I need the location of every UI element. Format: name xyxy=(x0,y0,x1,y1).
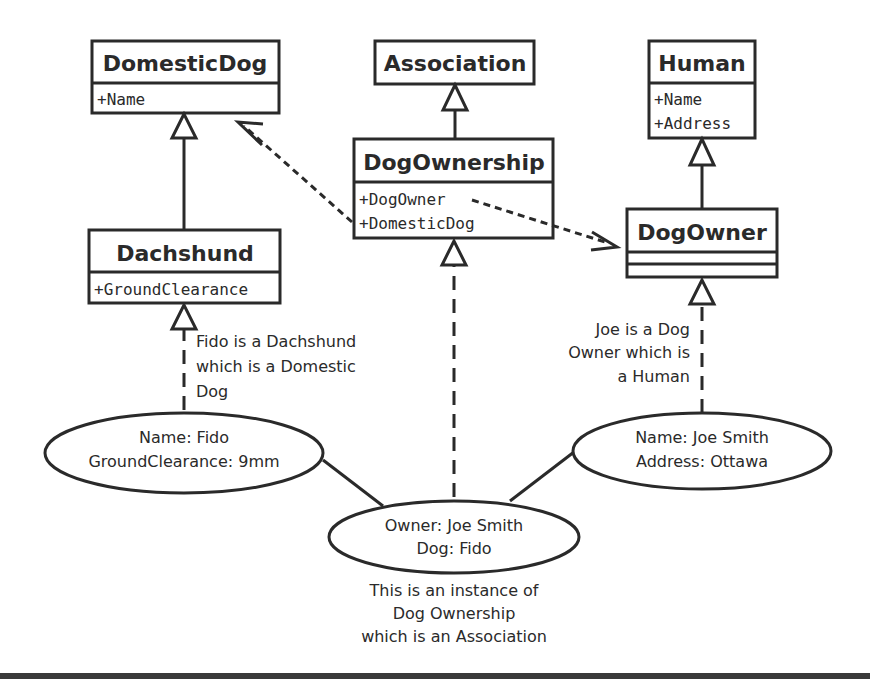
note-fido: Fido is a Dachshund which is a Domestic … xyxy=(196,332,356,401)
svg-text:Owner which is: Owner which is xyxy=(568,343,690,362)
class-name: DogOwnership xyxy=(363,150,545,175)
svg-text:Owner: Joe Smith: Owner: Joe Smith xyxy=(385,516,523,535)
svg-text:Name: Fido: Name: Fido xyxy=(139,428,229,447)
svg-text:which is an Association: which is an Association xyxy=(361,627,547,646)
inheritance-arrow-icon xyxy=(442,241,466,265)
class-attr: +DogOwner xyxy=(359,190,446,209)
class-attr: +DomesticDog xyxy=(359,214,475,233)
instance-fido: Name: Fido GroundClearance: 9mm xyxy=(45,413,323,493)
svg-text:Fido is a Dachshund: Fido is a Dachshund xyxy=(196,332,356,351)
inheritance-arrow-icon xyxy=(172,305,196,329)
class-name: DogOwner xyxy=(637,220,767,245)
class-attr: +Name xyxy=(654,90,702,109)
class-name: DomesticDog xyxy=(103,51,268,76)
inheritance-arrow-icon xyxy=(172,114,196,138)
uml-diagram: DomesticDog +Name Association Human +Nam… xyxy=(0,0,870,694)
instance-ownership: Owner: Joe Smith Dog: Fido xyxy=(329,501,579,573)
instanceof-ownership-dogownership xyxy=(442,241,466,497)
class-name: Dachshund xyxy=(116,241,254,266)
class-attr: +Name xyxy=(97,90,145,109)
svg-text:Dog Ownership: Dog Ownership xyxy=(393,604,516,623)
generalization-dogownership-association xyxy=(443,85,467,139)
svg-text:Name: Joe Smith: Name: Joe Smith xyxy=(635,428,769,447)
reference-domesticdog xyxy=(238,122,352,222)
note-joe: Joe is a Dog Owner which is a Human xyxy=(568,320,690,386)
class-domestic-dog: DomesticDog +Name xyxy=(92,41,279,113)
class-association: Association xyxy=(375,41,534,84)
svg-text:This is an instance of: This is an instance of xyxy=(369,581,539,600)
svg-text:Dog: Fido: Dog: Fido xyxy=(416,539,491,558)
link-fido-ownership xyxy=(323,460,383,506)
class-name: Human xyxy=(658,51,746,76)
generalization-dachshund-domesticdog xyxy=(172,114,196,230)
svg-text:Dog: Dog xyxy=(196,382,228,401)
svg-text:which is a Domestic: which is a Domestic xyxy=(196,357,356,376)
instanceof-fido-dachshund xyxy=(172,305,196,410)
svg-text:a Human: a Human xyxy=(617,367,690,386)
open-arrow-icon xyxy=(238,122,263,145)
class-attr: +GroundClearance xyxy=(94,280,248,299)
class-human: Human +Name +Address xyxy=(649,41,755,138)
class-name: Association xyxy=(384,51,527,76)
inheritance-arrow-icon xyxy=(443,85,467,110)
bottom-divider xyxy=(0,673,870,679)
class-dog-ownership: DogOwnership +DogOwner +DomesticDog xyxy=(354,139,553,238)
svg-text:Joe is a Dog: Joe is a Dog xyxy=(595,320,690,339)
note-ownership: This is an instance of Dog Ownership whi… xyxy=(361,581,547,646)
inheritance-arrow-icon xyxy=(690,280,714,304)
svg-text:Address: Ottawa: Address: Ottawa xyxy=(636,452,768,471)
instanceof-joe-dogowner xyxy=(690,280,714,413)
link-joe-ownership xyxy=(510,452,574,501)
class-dachshund: Dachshund +GroundClearance xyxy=(89,230,280,303)
instance-joe: Name: Joe Smith Address: Ottawa xyxy=(573,413,831,489)
svg-text:GroundClearance: 9mm: GroundClearance: 9mm xyxy=(88,452,279,471)
generalization-dogowner-human xyxy=(690,139,714,209)
class-attr: +Address xyxy=(654,114,731,133)
inheritance-arrow-icon xyxy=(690,139,714,165)
class-dog-owner: DogOwner xyxy=(627,209,777,277)
